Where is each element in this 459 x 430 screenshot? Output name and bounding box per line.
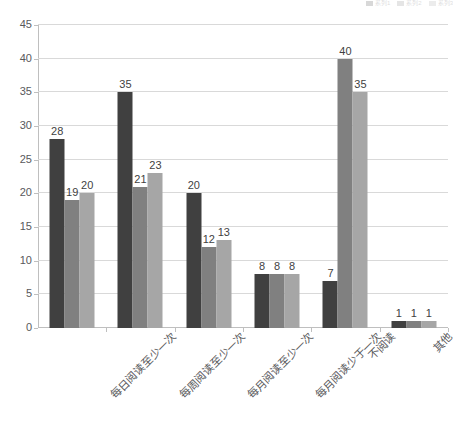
y-axis-tick-label: 35 — [2, 86, 32, 97]
y-axis-tick-label: 45 — [2, 19, 32, 30]
bar-value-label: 35 — [354, 79, 366, 90]
bar-value-label: 1 — [411, 308, 417, 319]
bar[interactable]: 35 — [353, 92, 368, 328]
y-axis-tick-mark — [34, 92, 38, 93]
bar[interactable]: 1 — [406, 321, 421, 328]
bar-value-label: 23 — [149, 160, 161, 171]
bar-value-label: 1 — [426, 308, 432, 319]
bar-value-label: 13 — [218, 227, 230, 238]
bar-group: 352123 — [106, 25, 174, 328]
x-axis-category-label: 每日阅读至少一次 — [108, 330, 179, 401]
bar[interactable]: 8 — [285, 274, 300, 328]
y-axis-tick-mark — [34, 25, 38, 26]
bar-chart: 系列1系列2系列3 28192035212320121388874035111 … — [0, 0, 459, 430]
y-axis-tick-label: 10 — [2, 255, 32, 266]
bar[interactable]: 20 — [186, 193, 201, 328]
bar[interactable]: 40 — [338, 59, 353, 328]
y-axis-tick-mark — [34, 294, 38, 295]
bar-value-label: 8 — [259, 261, 265, 272]
bar[interactable]: 1 — [391, 321, 406, 328]
legend-label: 系列2 — [406, 0, 421, 6]
bar-group: 111 — [380, 25, 448, 328]
x-axis-category-label: 其他 — [430, 330, 454, 354]
y-axis-tick-label: 15 — [2, 221, 32, 232]
y-axis-tick-label: 0 — [2, 322, 32, 333]
bar[interactable]: 8 — [270, 274, 285, 328]
bar[interactable]: 8 — [255, 274, 270, 328]
bar-value-label: 20 — [188, 180, 200, 191]
bar[interactable]: 21 — [133, 187, 148, 328]
bar[interactable]: 13 — [216, 240, 231, 328]
bar[interactable]: 35 — [118, 92, 133, 328]
y-axis-tick-mark — [34, 59, 38, 60]
bar-group: 74035 — [311, 25, 379, 328]
bar-group: 888 — [243, 25, 311, 328]
plot-area: 28192035212320121388874035111 — [38, 25, 448, 328]
legend-entry: 系列3 — [429, 0, 453, 6]
bar-value-label: 21 — [134, 174, 146, 185]
legend-swatch — [397, 1, 404, 6]
x-axis-category-label: 每周阅读至少一次 — [176, 330, 247, 401]
x-axis-category-label: 每月阅读少于一次 — [313, 330, 384, 401]
y-axis-tick-mark — [34, 328, 38, 329]
legend-entry: 系列1 — [366, 0, 390, 6]
bar-value-label: 19 — [66, 187, 78, 198]
x-axis-category-label: 每月阅读至少一次 — [245, 330, 316, 401]
legend-swatch — [366, 1, 373, 6]
bar-value-label: 40 — [339, 46, 351, 57]
y-axis-tick-label: 40 — [2, 53, 32, 64]
bar-value-label: 20 — [81, 180, 93, 191]
y-axis-tick-label: 5 — [2, 288, 32, 299]
y-axis-tick-mark — [34, 261, 38, 262]
bar[interactable]: 12 — [201, 247, 216, 328]
chart-legend: 系列1系列2系列3 — [366, 0, 453, 9]
bar-value-label: 8 — [274, 261, 280, 272]
y-axis-tick-label: 25 — [2, 154, 32, 165]
bar[interactable]: 1 — [421, 321, 436, 328]
bar-value-label: 12 — [203, 234, 215, 245]
y-axis-tick-label: 20 — [2, 187, 32, 198]
y-axis-tick-mark — [34, 193, 38, 194]
y-axis-tick-mark — [34, 160, 38, 161]
bar[interactable]: 28 — [50, 139, 65, 328]
bar[interactable]: 19 — [65, 200, 80, 328]
y-axis-tick-mark — [34, 227, 38, 228]
bar-value-label: 1 — [396, 308, 402, 319]
legend-label: 系列1 — [375, 0, 390, 6]
bar[interactable]: 20 — [80, 193, 95, 328]
legend-label: 系列3 — [438, 0, 453, 6]
y-axis-tick-mark — [34, 126, 38, 127]
bar-value-label: 7 — [327, 268, 333, 279]
bar[interactable]: 7 — [323, 281, 338, 328]
bar-group: 201213 — [175, 25, 243, 328]
bar-value-label: 8 — [289, 261, 295, 272]
bar-group: 281920 — [38, 25, 106, 328]
bar-groups: 28192035212320121388874035111 — [38, 25, 448, 328]
bar-value-label: 35 — [119, 79, 131, 90]
legend-entry: 系列2 — [397, 0, 421, 6]
legend-swatch — [429, 1, 436, 6]
x-axis-category-labels: 每日阅读至少一次每周阅读至少一次每月阅读至少一次每月阅读少于一次不阅读其他 — [38, 330, 448, 430]
bar-value-label: 28 — [51, 126, 63, 137]
y-axis-tick-label: 30 — [2, 120, 32, 131]
bar[interactable]: 23 — [148, 173, 163, 328]
